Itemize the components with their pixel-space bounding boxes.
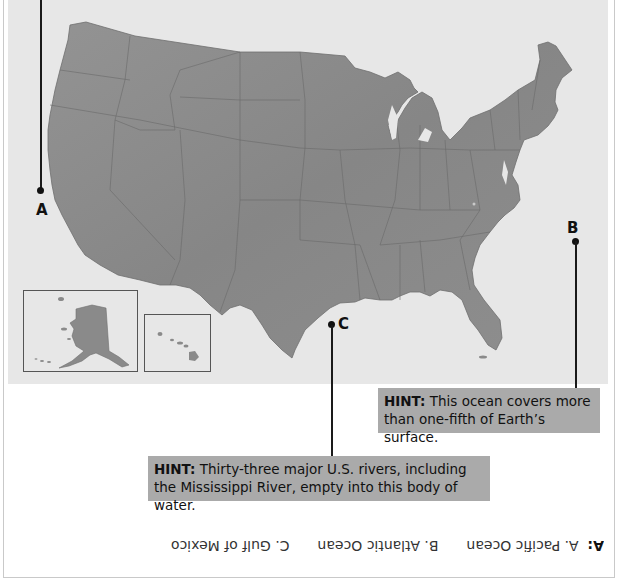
- hint-prefix: HINT:: [154, 461, 196, 477]
- alaska-shape: [24, 291, 137, 371]
- answer-item-a: A. Pacific Ocean: [466, 538, 578, 554]
- hawaii-inset: [144, 314, 211, 372]
- hawaii-shape: [145, 315, 210, 371]
- leader-line-b: [575, 241, 577, 388]
- marker-dot-a: [37, 187, 44, 194]
- answer-item-c: C. Gulf of Mexico: [171, 538, 290, 554]
- leader-line-c: [331, 325, 333, 456]
- answer-prefix: A:: [587, 538, 604, 554]
- marker-label-a: A: [36, 201, 48, 219]
- leader-line-a: [40, 0, 42, 190]
- map-panel: [8, 0, 608, 384]
- answer-item-b: B. Atlantic Ocean: [317, 538, 438, 554]
- marker-label-c: C: [338, 315, 349, 333]
- marker-label-b: B: [567, 219, 578, 237]
- hint-box-b: HINT: This ocean covers more than one-fi…: [378, 388, 600, 433]
- answer-key: A: A. Pacific Ocean B. Atlantic Ocean C.…: [192, 535, 604, 557]
- hint-prefix: HINT:: [384, 393, 426, 409]
- hint-box-c: HINT: Thirty-three major U.S. rivers, in…: [148, 456, 490, 501]
- alaska-inset: [23, 290, 138, 372]
